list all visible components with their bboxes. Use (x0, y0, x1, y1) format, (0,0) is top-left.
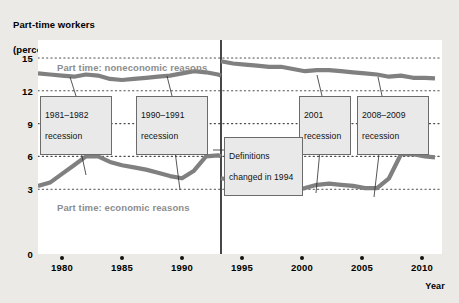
x-tick-dot-2010 (420, 256, 424, 260)
annotation-1990-line1: 1990–1991 (141, 110, 203, 121)
x-tick-1980: 1980 (51, 262, 73, 273)
y-tick-3: 3 (28, 184, 33, 195)
y-tick-15: 15 (22, 53, 33, 64)
x-tick-1995: 1995 (231, 262, 253, 273)
series-label-economic: Part time: economic reasons (57, 202, 190, 213)
annotation-2001-line1: 2001 (304, 110, 346, 121)
x-tick-1985: 1985 (111, 262, 133, 273)
annotation-definitions-line2: changed in 1994 (229, 172, 298, 183)
annotation-recession-1990-1991: 1990–1991 recession (136, 96, 208, 155)
x-tick-1990: 1990 (171, 262, 193, 273)
x-tick-dot-2000 (300, 256, 304, 260)
series-noneconomic-post1994 (221, 61, 435, 78)
x-axis: 1980 1985 1990 1995 2000 2005 2010 (0, 254, 459, 284)
y-tick-9: 9 (28, 118, 33, 129)
annotation-1981-line2: recession (45, 131, 107, 142)
annotation-definitions-line1: Definitions (229, 151, 298, 162)
x-tick-dot-1990 (180, 256, 184, 260)
y-tick-6: 6 (28, 151, 33, 162)
annotation-2008-line1: 2008–2009 (362, 110, 424, 121)
annotation-2001-line2: recession (304, 131, 346, 142)
annotation-1990-line2: recession (141, 131, 203, 142)
title-line-1: Part-time workers (13, 19, 143, 32)
annotation-definitions-changed: Definitions changed in 1994 (224, 137, 303, 196)
x-tick-2005: 2005 (351, 262, 373, 273)
series-economic-pre1994 (38, 155, 221, 186)
annotation-recession-2008-2009: 2008–2009 recession (357, 96, 429, 155)
chart-root: Part-time workers (percentage of employm… (0, 0, 459, 303)
annotation-recession-1981-1982: 1981–1982 recession (40, 96, 112, 155)
series-label-noneconomic: Part time: noneconomic reasons (57, 62, 207, 73)
y-axis: 0 3 6 9 12 15 (0, 40, 38, 254)
x-tick-dot-2005 (360, 256, 364, 260)
annotation-2008-line2: recession (362, 131, 424, 142)
x-tick-2010: 2010 (411, 262, 433, 273)
x-axis-caption: Year (425, 281, 445, 291)
y-tick-12: 12 (22, 85, 33, 96)
x-tick-2000: 2000 (291, 262, 313, 273)
x-tick-dot-1995 (240, 256, 244, 260)
annotation-1981-line1: 1981–1982 (45, 110, 107, 121)
x-tick-dot-1980 (60, 256, 64, 260)
x-tick-dot-1985 (120, 256, 124, 260)
annotation-recession-2001: 2001 recession (299, 96, 351, 155)
